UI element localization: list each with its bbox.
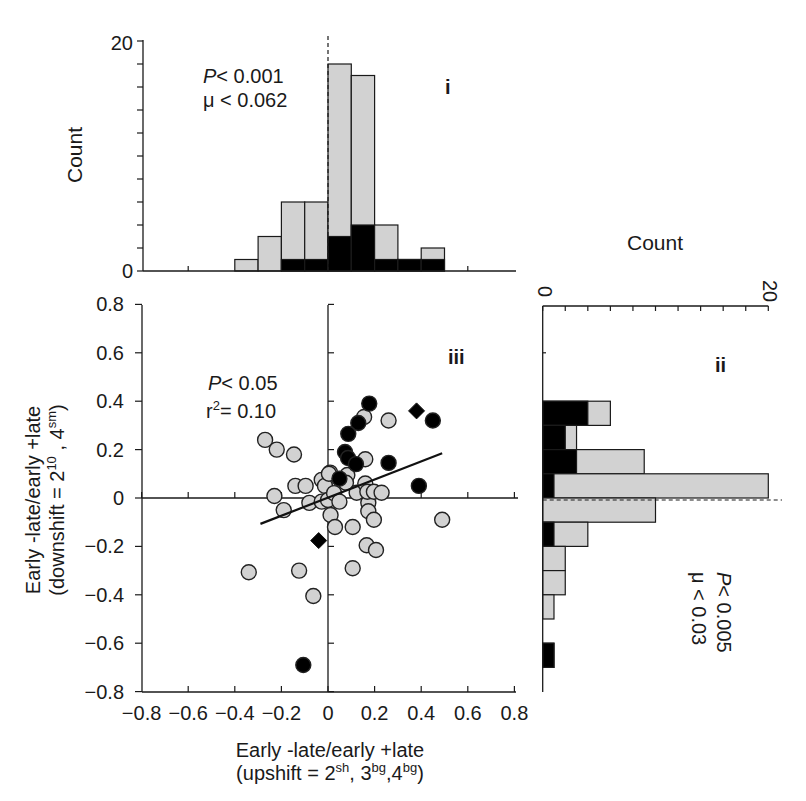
histogram-ii-p-value: P< 0.005: [713, 572, 735, 653]
scatter-point-gray: [292, 563, 307, 578]
scatter-point-black: [381, 455, 396, 470]
histogram-i-bar-black: [421, 260, 444, 272]
scatter-point-gray: [345, 561, 360, 576]
scatter-x-tick-label: −0.6: [168, 702, 207, 724]
histogram-i-bar-black: [375, 260, 398, 272]
scatter-y-axis-title-line2: (downshift = 210 , 4sm): [44, 404, 68, 595]
panel-label-i: i: [445, 76, 451, 98]
histogram-ii-x-axis-title: Count: [627, 231, 683, 254]
histogram-i-bar-black: [305, 260, 328, 272]
scatter-points: [241, 396, 449, 672]
histogram-ii-bar-gray: [543, 546, 566, 570]
scatter-point-gray: [269, 442, 284, 457]
scatter-p-value: P< 0.05: [208, 372, 278, 394]
scatter-y-tick-label: 0.6: [96, 342, 124, 364]
histogram-ii-bar-gray: [543, 571, 566, 595]
scatter-point-gray: [327, 520, 342, 535]
histogram-i-y-axis-title: Count: [63, 127, 86, 183]
scatter-y-tick-label: 0.8: [96, 293, 124, 315]
histogram-ii-bar-gray: [543, 498, 656, 522]
scatter-x-tick-label: 0: [322, 702, 333, 724]
scatter-point-gray: [435, 512, 450, 527]
scatter-x-axis-title-line2: (upshift = 2sh, 3bg,4bg): [236, 760, 424, 784]
histogram-i-p-value: P< 0.001: [203, 65, 284, 87]
scatter-point-black: [411, 478, 426, 493]
scatter-x-tick-label: −0.4: [215, 702, 254, 724]
histogram-i-bar-black: [328, 237, 351, 272]
scatter-y-tick-label: −0.4: [85, 584, 124, 606]
scatter-point-diamond: [409, 403, 425, 419]
scatter-point-gray: [267, 489, 282, 504]
scatter-y-axis-title-line1: Early -late/early +late: [22, 406, 44, 594]
scatter-point-gray: [306, 589, 321, 604]
histogram-i-bar-black: [351, 225, 374, 271]
scatter-point-gray: [345, 520, 360, 535]
scatter-iii: −0.80.8−0.60.6−0.40.4−0.20.2000.2−0.20.4…: [22, 293, 528, 784]
scatter-x-tick-label: 0.8: [500, 702, 528, 724]
histogram-ii-x-ticks: [543, 306, 769, 353]
panel-label-iii: iii: [448, 346, 465, 368]
histogram-ii-bar-black: [543, 401, 588, 425]
scatter-y-tick-label: −0.8: [85, 681, 124, 703]
scatter-point-black: [348, 457, 363, 472]
histogram-i-bar-black: [281, 260, 304, 272]
scatter-x-tick-label: −0.2: [262, 702, 301, 724]
histogram-ii-bar-gray: [543, 595, 554, 619]
histogram-ii-mean: μ < 0.03: [688, 572, 710, 645]
histogram-ii-bar-gray: [543, 474, 769, 498]
histogram-i-bar-gray: [235, 260, 258, 272]
scatter-x-tick-label: −0.8: [122, 702, 161, 724]
scatter-point-gray: [368, 543, 383, 558]
figure: 20 0 Count P< 0.001 μ < 0.062 i 0 20 Cou…: [0, 0, 806, 801]
histogram-i: 20 0 Count P< 0.001 μ < 0.062 i: [63, 32, 516, 282]
histogram-ii-bar-black: [543, 522, 554, 546]
histogram-i-y-tick-label-20: 20: [111, 32, 133, 54]
histogram-i-bar-black: [398, 260, 421, 272]
scatter-point-black: [362, 396, 377, 411]
scatter-point-gray: [366, 512, 381, 527]
scatter-point-diamond: [311, 533, 327, 549]
histogram-ii-bar-black: [543, 425, 566, 449]
scatter-r-squared: r2= 0.10: [206, 398, 276, 422]
scatter-point-gray: [381, 413, 396, 428]
scatter-y-tick-label: 0: [113, 487, 124, 509]
scatter-x-axis-title-line1: Early -late/early +late: [236, 739, 424, 761]
histogram-ii-x-tick-label-20: 20: [759, 280, 781, 302]
panel-label-ii: ii: [715, 354, 726, 376]
scatter-point-gray: [241, 565, 256, 580]
scatter-y-tick-label: −0.2: [85, 535, 124, 557]
scatter-point-black: [425, 413, 440, 428]
histogram-ii-x-tick-label-0: 0: [534, 286, 556, 297]
histogram-ii-bar-black: [543, 643, 554, 667]
scatter-point-black: [341, 426, 356, 441]
histogram-ii-bar-black: [543, 474, 554, 498]
scatter-x-tick-label: 0.6: [454, 702, 482, 724]
scatter-x-tick-label: 0.2: [361, 702, 389, 724]
scatter-point-black: [332, 471, 347, 486]
scatter-y-tick-label: 0.4: [96, 390, 124, 412]
scatter-y-tick-label: 0.2: [96, 439, 124, 461]
scatter-point-black: [296, 657, 311, 672]
histogram-ii: 0 20 Count P< 0.005 μ < 0.03 ii: [534, 231, 782, 692]
scatter-x-tick-label: 0.4: [407, 702, 435, 724]
scatter-y-tick-label: −0.6: [85, 632, 124, 654]
histogram-i-y-tick-label-0: 0: [122, 260, 133, 282]
scatter-point-gray: [374, 485, 389, 500]
scatter-point-gray: [298, 478, 313, 493]
histogram-ii-bar-black: [543, 450, 577, 474]
scatter-point-gray: [286, 447, 301, 462]
histogram-i-mean: μ < 0.062: [203, 89, 287, 111]
histogram-i-y-ticks: [137, 41, 143, 271]
histogram-i-bar-gray: [258, 237, 281, 272]
